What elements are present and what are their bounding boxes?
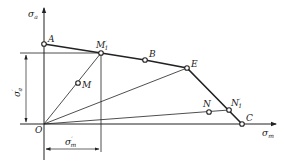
point-m1-prime <box>99 51 104 56</box>
label-a: A <box>47 34 55 44</box>
point-n <box>207 110 212 115</box>
label-m1-prime: M′1 <box>95 39 108 51</box>
y-axis-label: σa <box>28 9 38 20</box>
point-e <box>185 66 190 71</box>
sigma-m-prime-label: σ′m <box>65 135 77 148</box>
label-n: N <box>202 99 212 109</box>
label-c: C <box>246 113 253 123</box>
point-b <box>143 58 148 63</box>
point-m <box>76 81 81 86</box>
point-a <box>42 42 47 47</box>
limiting-stress-diagram: σa σm O σ′a σ′m A M′1 B E C M N N′1 <box>0 0 285 163</box>
point-n1-prime <box>227 108 232 113</box>
x-axis-label: σm <box>262 128 274 139</box>
label-n1-prime: N′1 <box>230 97 242 109</box>
origin-label: O <box>35 125 43 135</box>
label-e: E <box>190 59 198 69</box>
ray-o-e <box>44 68 187 124</box>
point-c <box>240 122 245 127</box>
label-b: B <box>148 49 156 59</box>
sigma-a-prime-label: σ′a <box>10 87 23 97</box>
label-m: M <box>81 80 92 90</box>
ray-o-n1prime <box>44 110 229 124</box>
ray-o-m1prime <box>44 53 101 124</box>
